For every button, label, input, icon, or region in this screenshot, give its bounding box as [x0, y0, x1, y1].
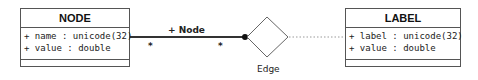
attribute-value: + value : double	[24, 42, 129, 54]
uml-diagram: NODE + name : unicode(32) + value : doub…	[0, 0, 478, 80]
attribute-label: + label : unicode(32)	[349, 30, 460, 42]
diamond-shape[interactable]	[247, 17, 288, 57]
attribute-value: + value : double	[349, 42, 460, 54]
association-role-label: + Node	[168, 25, 205, 35]
class-node-attributes: + name : unicode(32) + value : double	[21, 28, 129, 60]
attribute-name: + name : unicode(32)	[24, 30, 129, 42]
class-label[interactable]: LABEL + label : unicode(32) + value : do…	[345, 8, 461, 67]
multiplicity-left: *	[148, 41, 153, 51]
class-node-title: NODE	[21, 9, 129, 28]
class-node-operations	[21, 60, 129, 66]
class-label-title: LABEL	[346, 9, 460, 28]
multiplicity-right: *	[218, 41, 223, 51]
class-label-operations	[346, 60, 460, 66]
class-label-attributes: + label : unicode(32) + value : double	[346, 28, 460, 60]
diamond-label: Edge	[257, 64, 280, 74]
class-node[interactable]: NODE + name : unicode(32) + value : doub…	[20, 8, 130, 67]
